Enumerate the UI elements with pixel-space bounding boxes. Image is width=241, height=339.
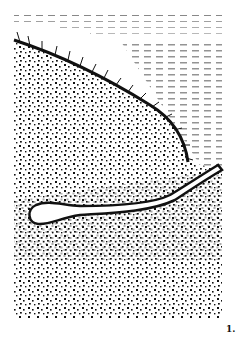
stipple-illustration	[0, 0, 241, 339]
figure-label: 1.	[226, 324, 235, 334]
